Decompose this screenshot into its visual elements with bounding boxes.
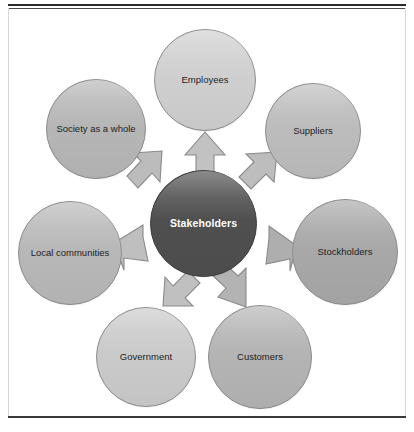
node-employees[interactable]: Employees bbox=[154, 29, 256, 131]
node-label-stockholders: Stockholders bbox=[312, 246, 379, 258]
node-label-suppliers: Suppliers bbox=[287, 125, 339, 137]
node-label-government: Government bbox=[114, 351, 178, 363]
node-label-customers: Customers bbox=[231, 351, 289, 363]
stakeholders-diagram: Employees Suppliers Stockholders Custome… bbox=[0, 0, 414, 432]
node-label-employees: Employees bbox=[176, 74, 235, 86]
node-customers[interactable]: Customers bbox=[208, 305, 312, 409]
node-label-stakeholders: Stakeholders bbox=[164, 217, 243, 230]
node-society-as-a-whole[interactable]: Society as a whole bbox=[46, 79, 146, 179]
node-stakeholders-hub[interactable]: Stakeholders bbox=[150, 170, 257, 277]
node-label-local-communities: Local communities bbox=[25, 247, 116, 259]
node-suppliers[interactable]: Suppliers bbox=[265, 83, 361, 179]
node-government[interactable]: Government bbox=[96, 307, 196, 407]
node-label-society-as-a-whole: Society as a whole bbox=[50, 123, 141, 135]
node-local-communities[interactable]: Local communities bbox=[18, 201, 122, 305]
node-stockholders[interactable]: Stockholders bbox=[292, 199, 398, 305]
